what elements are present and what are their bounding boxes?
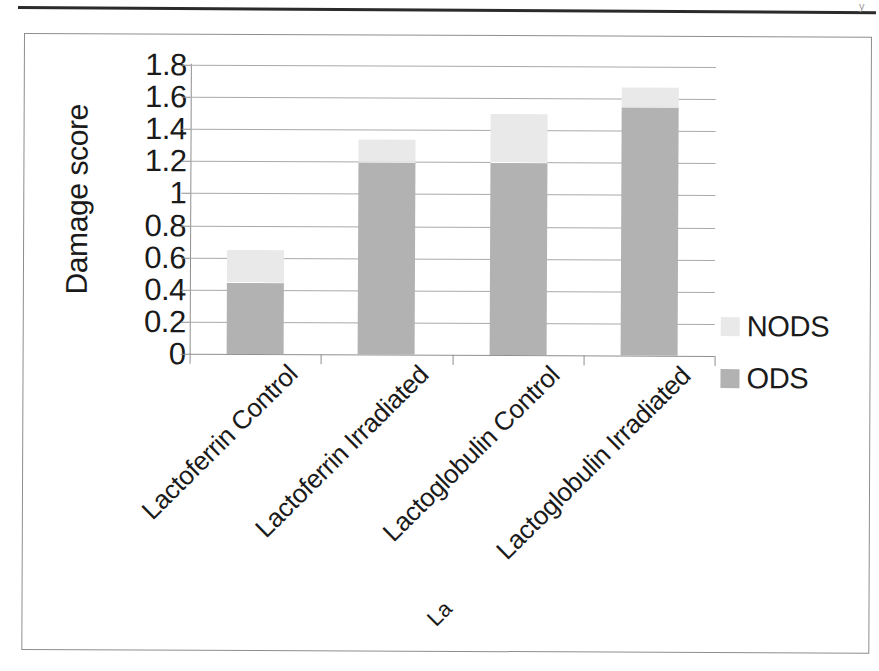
page-horizontal-rule <box>18 6 876 14</box>
legend-swatch-icon <box>720 369 739 388</box>
y-axis-tick-label: 0.4 <box>108 274 186 305</box>
legend-item[interactable]: NODS <box>721 300 871 353</box>
bar[interactable] <box>620 87 678 355</box>
y-axis-tickmark <box>181 193 190 194</box>
bar[interactable] <box>227 250 284 355</box>
bar-segment-ods[interactable] <box>227 282 284 354</box>
x-axis-category-labels: Lactoferrin ControlLactoferrin Irradiate… <box>188 360 809 643</box>
y-axis-tickmark <box>182 65 191 66</box>
y-axis-tick-label: 0.8 <box>108 209 186 240</box>
bar[interactable] <box>358 139 416 354</box>
y-axis-tickmark <box>181 225 190 226</box>
gridline <box>191 65 716 68</box>
y-axis-tickmark <box>181 354 190 355</box>
bar[interactable] <box>489 114 547 355</box>
y-axis-tick-label: 0.6 <box>108 242 186 273</box>
y-axis-tick-label: 1.8 <box>109 49 187 80</box>
legend-swatch-icon <box>721 317 740 336</box>
y-axis-tick-label: 1.6 <box>109 81 187 112</box>
y-axis-title: Damage score <box>62 84 93 314</box>
y-axis-tickmark <box>181 161 190 162</box>
bar-segment-ods[interactable] <box>358 162 416 355</box>
y-axis-tickmark <box>181 322 190 323</box>
bar-segment-ods[interactable] <box>489 162 547 355</box>
bar-segment-nods[interactable] <box>490 114 547 162</box>
chart-plot-wrapper: Damage score 1.81.61.41.210.80.60.40.20 … <box>22 34 871 653</box>
bar-segment-nods[interactable] <box>359 139 416 162</box>
y-axis-tickmark <box>182 97 191 98</box>
legend-label: NODS <box>747 312 830 341</box>
x-axis-category-label: Lactoglobulin Control <box>262 361 564 661</box>
legend-item[interactable]: ODS <box>720 352 870 405</box>
y-axis-tickmark <box>182 129 191 130</box>
y-axis-tick-label: 1 <box>108 177 186 208</box>
y-axis-tickmark <box>181 289 190 290</box>
bar-segment-nods[interactable] <box>227 250 284 282</box>
y-axis-tick-label: 0 <box>108 338 186 369</box>
chart-legend: NODSODS <box>720 300 870 405</box>
y-axis-tick-label: 1.4 <box>109 113 187 144</box>
plot-area <box>190 65 716 356</box>
y-axis-tick-label: 1.2 <box>108 145 186 176</box>
gridlines <box>191 65 716 67</box>
y-axis-line <box>190 64 192 355</box>
bar-segment-nods[interactable] <box>622 87 679 107</box>
page-corner-mark: y <box>859 0 865 12</box>
y-axis-tickmark <box>181 257 190 258</box>
legend-label: ODS <box>746 364 808 393</box>
y-axis-tick-label: 0.2 <box>108 306 186 337</box>
bar-segment-ods[interactable] <box>620 107 678 356</box>
chart-frame: Damage score 1.81.61.41.210.80.60.40.20 … <box>21 33 872 654</box>
